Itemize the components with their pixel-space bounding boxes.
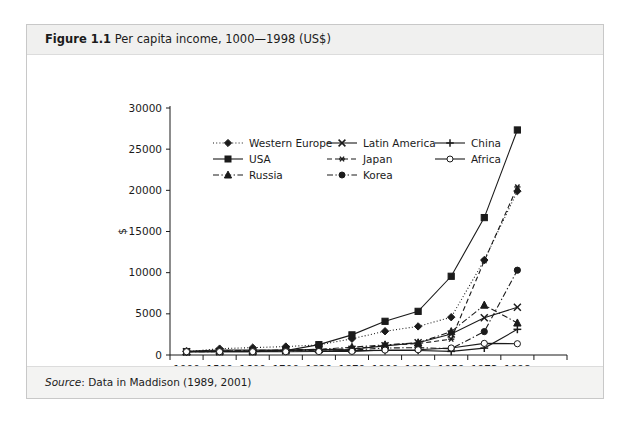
marker-square	[415, 308, 421, 314]
marker-plus	[513, 325, 521, 333]
marker-plus	[446, 139, 454, 147]
marker-circle-open	[250, 349, 256, 355]
legend-item-japan: Japan	[327, 153, 392, 165]
legend-item-china: China	[435, 137, 501, 149]
marker-diamond	[448, 313, 455, 320]
marker-circle-open	[448, 345, 454, 351]
marker-cross	[514, 304, 521, 311]
marker-diamond	[514, 187, 521, 194]
marker-circle-open	[447, 156, 453, 162]
y-tick-label: 5000	[135, 307, 162, 319]
marker-circle-open	[316, 348, 322, 354]
y-tick-label: 30000	[129, 102, 162, 114]
y-tick-label: 0	[155, 349, 162, 361]
marker-asterisk	[339, 157, 345, 162]
marker-diamond	[381, 328, 388, 335]
y-tick-label: 25000	[129, 143, 162, 155]
marker-circle-open	[283, 349, 289, 355]
legend-label: Western Europe	[249, 137, 332, 149]
legend-label: China	[471, 137, 501, 149]
figure-number: Figure 1.1	[45, 32, 111, 46]
legend-label: Korea	[363, 169, 393, 181]
marker-circle-open	[415, 347, 421, 353]
marker-triangle	[481, 301, 488, 308]
figure-title: Figure 1.1 Per capita income, 1000—1998 …	[45, 32, 331, 46]
source-text: : Data in Maddison (1989, 2001)	[81, 376, 251, 388]
marker-square	[382, 318, 388, 324]
series-usa	[183, 127, 520, 355]
legend-label: Africa	[471, 153, 501, 165]
y-axis-title: $	[116, 228, 128, 235]
legend-item-western-europe: Western Europe	[213, 137, 332, 149]
figure-title-text: Per capita income, 1000—1998 (US$)	[115, 32, 331, 46]
marker-square	[514, 127, 520, 133]
per-capita-income-line-chart: 0500010000150002000025000300001000150016…	[27, 55, 605, 367]
marker-diamond	[224, 139, 231, 146]
marker-cross	[481, 314, 488, 321]
marker-circle-open	[382, 347, 388, 353]
source-line: Source: Data in Maddison (1989, 2001)	[45, 376, 251, 388]
legend-item-russia: Russia	[213, 169, 283, 181]
marker-asterisk	[448, 337, 454, 342]
marker-circle-filled	[481, 329, 487, 335]
marker-circle-open	[217, 349, 223, 355]
legend-label: Latin America	[363, 137, 436, 149]
y-tick-label: 15000	[129, 225, 162, 237]
marker-triangle	[514, 319, 521, 326]
series-japan	[183, 184, 520, 354]
y-tick-label: 20000	[129, 184, 162, 196]
marker-square	[481, 214, 487, 220]
legend-label: USA	[249, 153, 272, 165]
chart-plot-area: 0500010000150002000025000300001000150016…	[27, 55, 605, 367]
marker-square	[448, 273, 454, 279]
marker-square	[349, 332, 355, 338]
marker-circle-open	[514, 341, 520, 347]
marker-circle-filled	[514, 267, 520, 273]
series-line	[187, 191, 518, 352]
figure-card: Figure 1.1 Per capita income, 1000—1998 …	[26, 24, 604, 399]
marker-circle-filled	[339, 172, 345, 178]
series-western-europe	[183, 187, 521, 355]
figure-footer: Source: Data in Maddison (1989, 2001)	[27, 366, 603, 398]
legend-item-korea: Korea	[327, 169, 393, 181]
series-line	[187, 187, 518, 352]
source-label: Source	[45, 376, 81, 388]
marker-circle-open	[183, 349, 189, 355]
marker-square	[225, 156, 231, 162]
legend-label: Russia	[249, 169, 283, 181]
marker-diamond	[414, 323, 421, 330]
y-tick-label: 10000	[129, 266, 162, 278]
figure-header: Figure 1.1 Per capita income, 1000—1998 …	[27, 25, 603, 55]
legend-item-usa: USA	[213, 153, 272, 165]
legend-item-latin-america: Latin America	[327, 137, 436, 149]
marker-circle-open	[481, 340, 487, 346]
legend-item-africa: Africa	[435, 153, 501, 165]
legend-label: Japan	[362, 153, 392, 165]
series-line	[187, 130, 518, 352]
marker-circle-open	[349, 348, 355, 354]
